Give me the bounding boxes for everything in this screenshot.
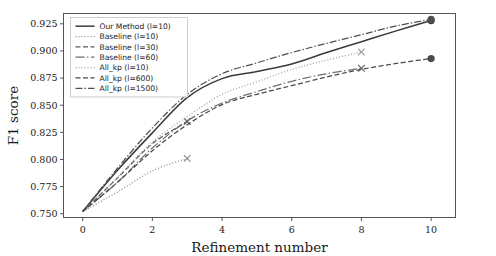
- marker-circle: [428, 55, 435, 62]
- x-tick-label: 8: [358, 224, 364, 235]
- y-tick-label: 0.850: [30, 100, 57, 111]
- x-tick-label: 6: [289, 224, 295, 235]
- marker-x: [358, 65, 365, 72]
- y-axis-label: F1 score: [5, 86, 21, 145]
- x-axis: 0246810: [80, 218, 438, 235]
- x-axis-label: Refinement number: [191, 239, 328, 255]
- legend-label-4: All_kp (l=10): [100, 63, 149, 72]
- legend-label-3: Baseline (l=60): [100, 53, 159, 62]
- legend: Our Method (l=10)Baseline (l=10)Baseline…: [71, 18, 188, 97]
- marker-x: [184, 155, 191, 162]
- y-tick-label: 0.775: [30, 181, 57, 192]
- legend-label-1: Baseline (l=10): [100, 32, 159, 41]
- y-tick-label: 0.750: [30, 208, 57, 219]
- legend-label-0: Our Method (l=10): [100, 22, 171, 31]
- y-tick-label: 0.875: [30, 72, 57, 83]
- x-tick-label: 4: [219, 224, 225, 235]
- legend-label-5: All_kp (l=600): [100, 74, 154, 83]
- x-tick-label: 2: [149, 224, 155, 235]
- y-tick-label: 0.925: [30, 18, 57, 29]
- y-tick-label: 0.825: [30, 127, 57, 138]
- y-tick-label: 0.900: [30, 45, 57, 56]
- legend-label-6: All_kp (l=1500): [100, 84, 159, 93]
- x-tick-label: 0: [80, 224, 86, 235]
- marker-x: [358, 49, 365, 56]
- series-1: [83, 155, 191, 211]
- y-axis: 0.7500.7750.8000.8250.8500.8750.9000.925: [30, 18, 63, 219]
- x-tick-label: 10: [425, 224, 437, 235]
- marker-circle: [428, 16, 435, 23]
- legend-label-2: Baseline (l=30): [100, 43, 159, 52]
- line-chart: 0246810Refinement number0.7500.7750.8000…: [0, 0, 496, 256]
- chart-figure: 0246810Refinement number0.7500.7750.8000…: [0, 0, 496, 256]
- y-tick-label: 0.800: [30, 154, 57, 165]
